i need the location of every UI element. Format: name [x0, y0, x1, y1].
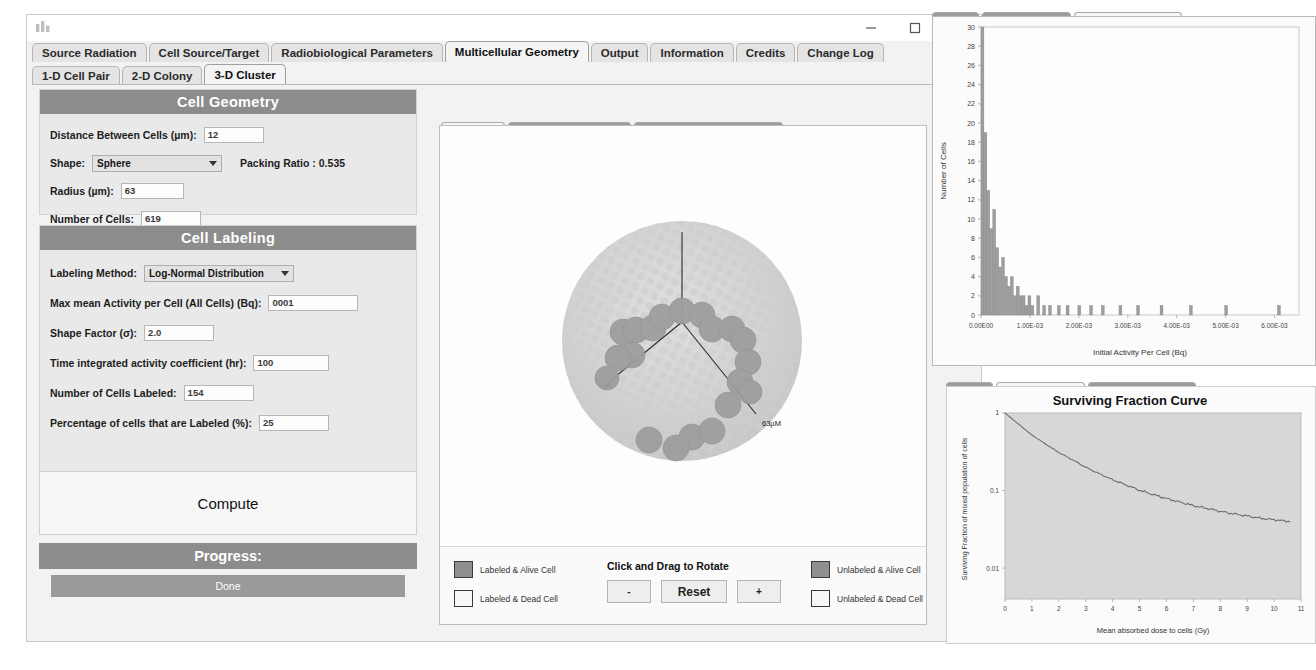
legend-item-unlabeled-alive: Unlabeled & Alive Cell	[811, 561, 921, 578]
app-icon	[35, 19, 51, 33]
compute-panel: Compute	[39, 471, 417, 535]
shape-factor-row: Shape Factor (σ): 2.0	[40, 322, 416, 344]
tab-credits[interactable]: Credits	[736, 43, 796, 62]
radius-row: Radius (µm): 63	[40, 180, 416, 202]
reset-button[interactable]: Reset	[661, 580, 727, 603]
tab-1d-cell-pair[interactable]: 1-D Cell Pair	[32, 66, 120, 85]
shape-dropdown-value: Sphere	[97, 156, 131, 171]
percentage-labeled-label: Percentage of cells that are Labeled (%)…	[50, 417, 252, 429]
svg-text:8: 8	[1218, 605, 1222, 612]
chevron-down-icon	[209, 161, 217, 166]
cell-geometry-title: Cell Geometry	[40, 90, 416, 114]
number-of-cells-label: Number of Cells:	[50, 213, 134, 225]
sub-tab-bar[interactable]: 1-D Cell Pair 2-D Colony 3-D Cluster	[32, 64, 288, 85]
svg-text:20: 20	[967, 120, 975, 127]
histogram-y-axis-label: Number of Cells	[939, 142, 948, 199]
sfc-x-axis-label: Mean absorbed dose to cells (Gy)	[1097, 626, 1210, 635]
percentage-labeled-row: Percentage of cells that are Labeled (%)…	[40, 412, 416, 434]
labeling-method-dropdown[interactable]: Log-Normal Distribution	[144, 265, 294, 282]
legend-label-labeled-alive: Labeled & Alive Cell	[480, 565, 556, 575]
svg-text:18: 18	[967, 139, 975, 146]
tab-multicellular-geometry[interactable]: Multicellular Geometry	[445, 41, 589, 62]
legend-swatch-unlabeled-dead	[811, 590, 830, 607]
tab-source-radiation[interactable]: Source Radiation	[32, 43, 147, 62]
svg-text:26: 26	[967, 62, 975, 69]
svg-text:1.00E-03: 1.00E-03	[1017, 322, 1044, 329]
max-activity-label: Max mean Activity per Cell (All Cells) (…	[50, 297, 261, 309]
distance-between-cells-input[interactable]: 12	[204, 127, 264, 143]
svg-text:0.00E00: 0.00E00	[969, 322, 994, 329]
tab-change-log[interactable]: Change Log	[797, 43, 883, 62]
shape-factor-label: Shape Factor (σ):	[50, 327, 137, 339]
cluster-3d-render[interactable]: 63µM	[440, 126, 926, 546]
labeling-method-value: Log-Normal Distribution	[149, 266, 264, 281]
progress-header: Progress:	[39, 543, 417, 569]
svg-text:24: 24	[967, 81, 975, 88]
zoom-in-button[interactable]: +	[737, 580, 781, 603]
svg-text:0.1: 0.1	[990, 487, 999, 494]
percentage-labeled-input[interactable]: 25	[259, 415, 329, 431]
surviving-fraction-curve-chart: Surviving Fraction Curve 10.10.01 012345…	[947, 387, 1313, 641]
svg-text:1: 1	[1030, 605, 1034, 612]
svg-text:9: 9	[1245, 605, 1249, 612]
tab-3d-cluster[interactable]: 3-D Cluster	[204, 64, 285, 85]
svg-text:4: 4	[1111, 605, 1115, 612]
labeling-method-row: Labeling Method: Log-Normal Distribution	[40, 262, 416, 284]
cells-labeled-input[interactable]: 154	[184, 385, 254, 401]
svg-text:1: 1	[995, 409, 999, 416]
svg-text:30: 30	[967, 24, 975, 31]
cells-labeled-row: Number of Cells Labeled: 154	[40, 382, 416, 404]
tab-underline	[32, 84, 976, 85]
shape-label: Shape:	[50, 157, 85, 169]
radius-label: Radius (µm):	[50, 185, 114, 197]
svg-text:0: 0	[1003, 605, 1007, 612]
distance-between-cells-row: Distance Between Cells (µm): 12	[40, 124, 416, 146]
svg-text:2: 2	[971, 292, 975, 299]
svg-text:11: 11	[1298, 605, 1305, 612]
minimize-icon[interactable]	[849, 15, 893, 41]
shape-dropdown[interactable]: Sphere	[92, 155, 222, 172]
svg-text:12: 12	[967, 196, 975, 203]
tab-radiobiological-parameters[interactable]: Radiobiological Parameters	[271, 43, 442, 62]
chevron-down-icon	[281, 271, 289, 276]
cluster-view-panel: 63µM Labeled & Alive Cell Labeled & Dead…	[439, 125, 927, 625]
distance-between-cells-label: Distance Between Cells (µm):	[50, 129, 197, 141]
rotate-controls: - Reset +	[607, 580, 781, 603]
svg-text:0.01: 0.01	[986, 565, 999, 572]
legend-item-labeled-dead: Labeled & Dead Cell	[454, 590, 558, 607]
radius-input[interactable]: 63	[121, 183, 184, 199]
svg-text:28: 28	[967, 43, 975, 50]
max-activity-input[interactable]: 0001	[268, 295, 358, 311]
svg-text:6.00E-03: 6.00E-03	[1261, 322, 1288, 329]
sfc-chart-title: Surviving Fraction Curve	[1053, 393, 1208, 408]
zoom-out-button[interactable]: -	[607, 580, 651, 603]
tab-cell-source-target[interactable]: Cell Source/Target	[149, 43, 270, 62]
compute-button[interactable]: Compute	[198, 495, 259, 512]
tiac-input[interactable]: 100	[253, 355, 329, 371]
cell-labeling-title: Cell Labeling	[40, 226, 416, 250]
legend-label-unlabeled-alive: Unlabeled & Alive Cell	[837, 565, 921, 575]
tab-information[interactable]: Information	[650, 43, 733, 62]
svg-text:22: 22	[967, 100, 975, 107]
shape-factor-input[interactable]: 2.0	[144, 325, 214, 341]
progress-status-bar: Done	[51, 575, 405, 597]
tab-2d-colony[interactable]: 2-D Colony	[122, 66, 203, 85]
cell-geometry-panel: Cell Geometry Distance Between Cells (µm…	[39, 89, 417, 215]
activity-distribution-histogram-chart: 024681012141618202224262830 0.00E001.00E…	[933, 17, 1313, 363]
cluster-legend-bar: Labeled & Alive Cell Labeled & Dead Cell…	[440, 546, 926, 624]
packing-ratio-label: Packing Ratio : 0.535	[240, 157, 345, 169]
rotate-instruction-label: Click and Drag to Rotate	[607, 560, 729, 572]
labeling-method-label: Labeling Method:	[50, 267, 137, 279]
sfc-y-axis-label: Surviving Fraction of mixed population o…	[961, 437, 969, 580]
cells-labeled-label: Number of Cells Labeled:	[50, 387, 177, 399]
tab-output[interactable]: Output	[591, 43, 649, 62]
histogram-x-axis-label: Initial Activity Per Cell (Bq)	[1093, 348, 1187, 357]
svg-text:2.00E-03: 2.00E-03	[1066, 322, 1093, 329]
svg-text:7: 7	[1192, 605, 1196, 612]
cluster-3d-viewport[interactable]: 63µM	[440, 126, 926, 546]
surviving-fraction-curve-panel: Surviving Fraction Curve 10.10.01 012345…	[946, 386, 1316, 644]
tiac-row: Time integrated activity coefficient (hr…	[40, 352, 416, 374]
main-tab-bar[interactable]: Source Radiation Cell Source/Target Radi…	[32, 41, 886, 62]
application-root: Source Radiation Cell Source/Target Radi…	[0, 0, 1316, 670]
maximize-icon[interactable]	[893, 15, 937, 41]
